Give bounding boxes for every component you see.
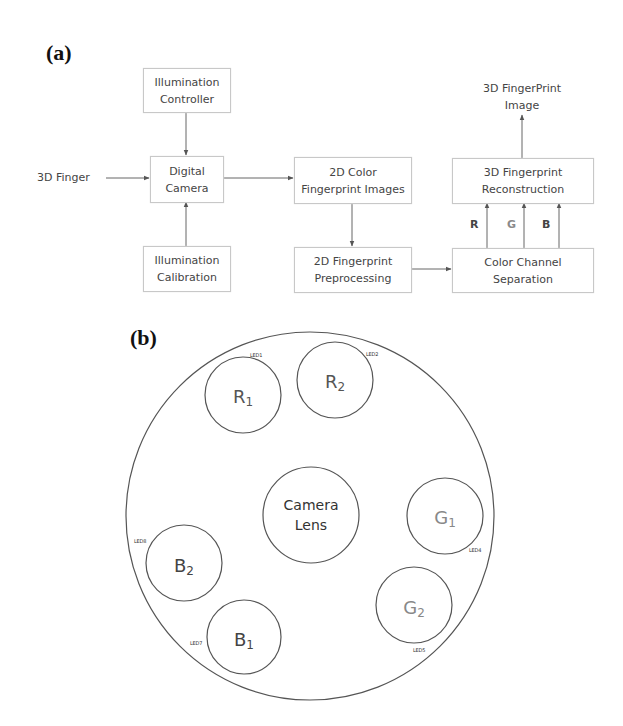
led7-tag: LED7: [190, 640, 202, 646]
led-subscript: 2: [186, 564, 194, 578]
lens-text-line: Lens: [284, 515, 339, 535]
box-text-line: Illumination: [155, 252, 220, 269]
box-illumination-controller: IlluminationController: [143, 68, 231, 113]
box-text-line: Preprocessing: [314, 270, 393, 287]
led-name: B: [234, 629, 246, 650]
led-b1-label: B1: [234, 629, 254, 652]
box-text-line: Digital: [165, 163, 208, 180]
led-subscript: 1: [245, 395, 253, 409]
led-r1-label: R1: [233, 386, 253, 409]
led-name: R: [325, 371, 338, 392]
channel-label-b: B: [542, 218, 550, 231]
panel-b-label: (b): [130, 325, 157, 351]
channel-label-r: R: [470, 218, 478, 231]
led-subscript: 2: [337, 380, 345, 394]
box-digital-camera: DigitalCamera: [150, 156, 224, 203]
led-name: B: [174, 555, 186, 576]
led-name: R: [233, 386, 246, 407]
led4-tag: LED4: [469, 547, 481, 553]
led5-tag: LED5: [413, 647, 425, 653]
box-text-line: 3D Fingerprint: [482, 164, 564, 181]
led-r2-label: R2: [325, 371, 345, 394]
box-2d-fingerprint-preprocessing: 2D FingerprintPreprocessing: [294, 247, 412, 293]
box-text-line: Separation: [484, 271, 561, 288]
lens-text-line: Camera: [284, 495, 339, 515]
output-text-line: Image: [462, 97, 582, 114]
channel-label-g: G: [507, 218, 516, 231]
box-text-line: 2D Color: [301, 164, 404, 181]
led-name: G: [403, 597, 417, 618]
led8-tag: LED8: [134, 538, 146, 544]
box-text-line: Illumination: [155, 74, 220, 91]
box-text-line: Color Channel: [484, 254, 561, 271]
box-illumination-calibration: IlluminationCalibration: [143, 246, 231, 292]
led-subscript: 1: [246, 638, 254, 652]
box-text-line: Reconstruction: [482, 181, 564, 198]
led2-tag: LED2: [366, 351, 378, 357]
output-3d-fingerprint-image-text: 3D FingerPrint Image: [462, 80, 582, 114]
box-text-line: Controller: [155, 91, 220, 108]
led-g1-label: G1: [434, 507, 456, 530]
led-name: G: [434, 507, 448, 528]
box-text-line: 2D Fingerprint: [314, 253, 393, 270]
panel-a-label: (a): [46, 40, 72, 66]
box-color-channel-separation: Color ChannelSeparation: [452, 248, 594, 293]
camera-lens-label: Camera Lens: [284, 495, 339, 535]
box-3d-fingerprint-reconstruction: 3D FingerprintReconstruction: [452, 158, 594, 204]
box-text-line: Calibration: [155, 269, 220, 286]
led-g2-label: G2: [403, 597, 425, 620]
led-subscript: 1: [448, 516, 456, 530]
box-2d-color-fingerprint-images: 2D ColorFingerprint Images: [294, 157, 412, 204]
input-3d-finger-text: 3D Finger: [37, 169, 90, 186]
box-text-line: Camera: [165, 180, 208, 197]
box-text-line: Fingerprint Images: [301, 181, 404, 198]
output-text-line: 3D FingerPrint: [462, 80, 582, 97]
led-b2-label: B2: [174, 555, 194, 578]
led1-tag: LED1: [250, 352, 262, 358]
led-subscript: 2: [417, 606, 425, 620]
